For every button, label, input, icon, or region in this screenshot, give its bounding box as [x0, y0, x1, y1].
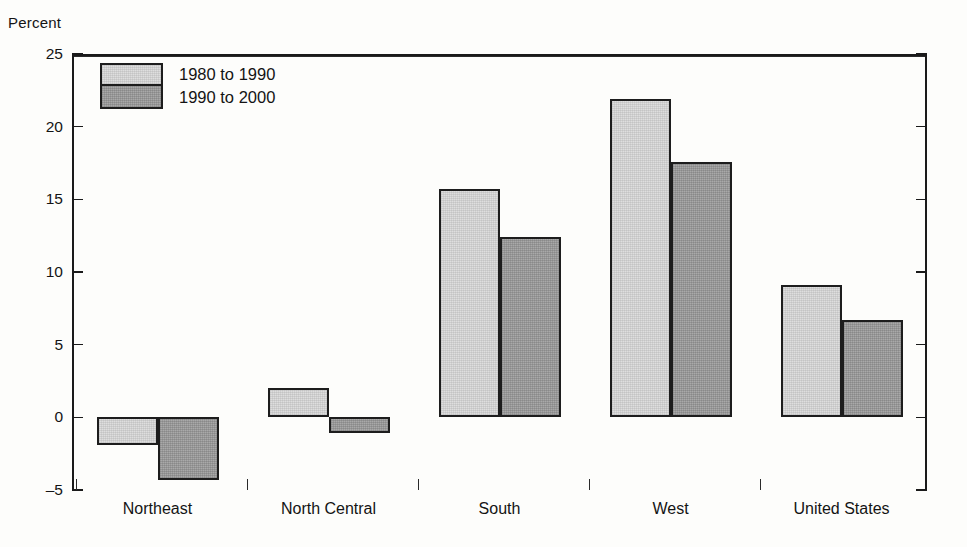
plot-area: 2520151050–5: [72, 54, 927, 490]
x-label-north-central: North Central: [281, 500, 376, 518]
bar-south-1980-to-1990: [439, 189, 500, 417]
y-tick-right-5: [916, 344, 927, 346]
x-label-northeast: Northeast: [123, 500, 192, 518]
legend-item-1980-1990: 1980 to 1990: [100, 63, 275, 86]
y-tick-label-15: 15: [46, 190, 63, 208]
legend-swatch-dark: [100, 86, 163, 109]
bar-north-central-1990-to-2000: [329, 417, 390, 433]
y-tick-right--5: [916, 489, 927, 491]
y-tick-5: [72, 344, 83, 346]
bar-united-states-1990-to-2000: [842, 320, 903, 417]
legend-label-1990-2000: 1990 to 2000: [179, 88, 275, 107]
legend-swatch-light: [100, 63, 163, 86]
legend-item-1990-2000: 1990 to 2000: [100, 86, 275, 109]
y-tick-label--5: –5: [46, 481, 63, 499]
y-tick-right-0: [916, 417, 927, 419]
y-tick--5: [72, 489, 83, 491]
bar-northeast-1980-to-1990: [97, 417, 158, 445]
bar-west-1990-to-2000: [671, 162, 732, 418]
y-tick-label-0: 0: [54, 408, 63, 426]
x-tick-0: [76, 479, 78, 490]
y-tick-label-5: 5: [54, 336, 63, 354]
x-tick-4: [760, 479, 762, 490]
bar-northeast-1990-to-2000: [158, 417, 219, 479]
y-tick-right-15: [916, 199, 927, 201]
legend: 1980 to 1990 1990 to 2000: [100, 63, 275, 109]
y-tick-label-20: 20: [46, 118, 63, 136]
y-tick-10: [72, 271, 83, 273]
x-tick-1: [247, 479, 249, 490]
bar-south-1990-to-2000: [500, 237, 561, 417]
x-axis-line: [72, 56, 927, 58]
legend-label-1980-1990: 1980 to 1990: [179, 65, 275, 84]
y-tick-15: [72, 199, 83, 201]
x-label-south: South: [479, 500, 521, 518]
y-tick-label-10: 10: [46, 263, 63, 281]
y-tick-right-25: [916, 53, 927, 55]
x-label-west: West: [652, 500, 688, 518]
y-tick-20: [72, 126, 83, 128]
y-tick-0: [72, 417, 83, 419]
bar-north-central-1980-to-1990: [268, 388, 329, 417]
chart-page: Percent 2520151050–5 NortheastNorth Cent…: [0, 0, 967, 547]
y-axis-title: Percent: [8, 14, 61, 31]
y-tick-right-20: [916, 126, 927, 128]
x-label-united-states: United States: [793, 500, 889, 518]
y-tick-25: [72, 53, 83, 55]
y-tick-right-10: [916, 271, 927, 273]
x-tick-3: [589, 479, 591, 490]
x-tick-2: [418, 479, 420, 490]
bar-united-states-1980-to-1990: [781, 285, 842, 417]
bar-west-1980-to-1990: [610, 99, 671, 417]
y-tick-label-25: 25: [46, 45, 63, 63]
